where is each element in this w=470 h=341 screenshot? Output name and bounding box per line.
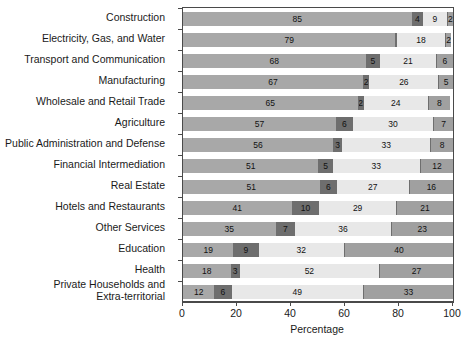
bar-segment: 8: [431, 138, 453, 152]
bar-segment-value: 57: [255, 119, 264, 129]
category-label: Wholesale and Retail Trade: [0, 91, 172, 112]
bar-segment-value: 68: [270, 56, 279, 66]
bar-segment: 33: [333, 159, 421, 173]
bar-segment: 56: [183, 138, 334, 152]
bar-segment-value: 36: [338, 224, 347, 234]
bar-segment-value: 19: [203, 245, 212, 255]
bar-segment-value: 30: [388, 119, 397, 129]
category-label: Health: [0, 259, 172, 280]
bar-segment: 49: [232, 285, 364, 299]
bar-segment: 4: [413, 12, 424, 26]
bar-row: 563338: [183, 138, 453, 152]
bar-segment: 26: [369, 75, 439, 89]
bar-segment-value: 7: [283, 224, 288, 234]
x-axis-line: [182, 301, 452, 302]
bar-segment-value: 67: [268, 77, 277, 87]
x-axis-tick: [290, 301, 291, 306]
bar-row: 685216: [183, 54, 453, 68]
bar-segment-value: 51: [247, 182, 256, 192]
bar-segment-value: 49: [292, 287, 301, 297]
x-axis-tick-label: 100: [443, 307, 461, 319]
bar-segment: 30: [353, 117, 434, 131]
y-axis-tick: [178, 176, 183, 177]
bar-segment: 18: [397, 33, 446, 47]
bar-segment: 51: [183, 180, 321, 194]
bar-segment: 57: [183, 117, 337, 131]
bar-segment-value: 8: [440, 140, 445, 150]
bar-segment-value: 2: [364, 77, 369, 87]
bar-segment: 41: [183, 201, 293, 215]
y-axis-tick: [178, 8, 183, 9]
bar-segment-value: 56: [253, 140, 262, 150]
x-axis-tick: [236, 301, 237, 306]
bar-segment-value: 10: [301, 203, 310, 213]
bar-segment: 85: [183, 12, 413, 26]
category-label: Manufacturing: [0, 70, 172, 91]
bar-segment-value: 12: [194, 287, 203, 297]
bar-segment: 6: [337, 117, 353, 131]
bar-segment: 5: [439, 75, 453, 89]
x-axis-tick-label: 80: [392, 307, 404, 319]
bar-segment: 9: [234, 243, 258, 257]
bar-segment-value: 40: [394, 245, 403, 255]
category-label: Other Services: [0, 217, 172, 238]
bar-segment-value: 5: [323, 161, 328, 171]
bar-segment-value: 2: [448, 14, 453, 24]
bar-segment: 79: [183, 33, 396, 47]
bar-segment-value: 52: [305, 266, 314, 276]
bar-segment-value: 3: [335, 140, 340, 150]
category-label: Financial Intermediation: [0, 154, 172, 175]
bar-segment-value: 27: [368, 182, 377, 192]
bar-segment-value: 4: [415, 14, 420, 24]
bar-segment-value: 21: [420, 203, 429, 213]
bar-segment-value: 29: [353, 203, 362, 213]
y-axis-tick: [178, 113, 183, 114]
bar-segment-value: 35: [225, 224, 234, 234]
category-label: Private Households and Extra-territorial: [0, 280, 172, 301]
bar-segment-value: 6: [443, 56, 448, 66]
y-axis-tick: [178, 218, 183, 219]
y-axis-tick: [178, 134, 183, 135]
bar-segment: 19: [183, 243, 234, 257]
bar-segment: 18: [183, 264, 232, 278]
bar-segment-value: 7: [441, 119, 446, 129]
bar-segment: 6: [437, 54, 453, 68]
category-label: Real Estate: [0, 175, 172, 196]
bar-segment: 10: [293, 201, 320, 215]
bar-segment: 7: [434, 117, 453, 131]
bar-segment-value: 24: [391, 98, 400, 108]
bar-segment: 12: [183, 285, 215, 299]
bar-segment: 6: [321, 180, 337, 194]
y-axis-tick: [178, 197, 183, 198]
category-label-column: ConstructionElectricity, Gas, and WaterT…: [0, 7, 172, 301]
bar-row: 85492: [183, 12, 453, 26]
bar-segment-value: 41: [233, 203, 242, 213]
bar-segment-value: 5: [370, 56, 375, 66]
bar-segment: 40: [345, 243, 453, 257]
bar-segment: 36: [295, 222, 391, 236]
bar-segment-value: 16: [427, 182, 436, 192]
category-label: Public Administration and Defense: [0, 133, 172, 154]
bar-segment-value: 9: [433, 14, 438, 24]
y-axis-tick: [178, 239, 183, 240]
bar-segment-value: 65: [266, 98, 275, 108]
bar-row: 1264933: [183, 285, 453, 299]
bar-segment-value: 18: [416, 35, 425, 45]
bar-segment: 21: [397, 201, 453, 215]
bar-row: 3573623: [183, 222, 453, 236]
plot-area: 8549279018268521667226565224857630756333…: [182, 7, 454, 303]
bar-segment-value: 26: [399, 77, 408, 87]
bar-segment: 65: [183, 96, 359, 110]
y-axis-tick: [178, 155, 183, 156]
bar-segment: 24: [364, 96, 429, 110]
bar-row: 1993240: [183, 243, 453, 257]
category-label: Education: [0, 238, 172, 259]
y-axis-tick: [178, 50, 183, 51]
bar-segment-value: 21: [403, 56, 412, 66]
bar-segment-value: 79: [284, 35, 293, 45]
bar-segment: 51: [183, 159, 319, 173]
bar-segment-value: 33: [372, 161, 381, 171]
bar-segment: 27: [337, 180, 410, 194]
bar-row: 790182: [183, 33, 453, 47]
x-axis-tick: [398, 301, 399, 306]
